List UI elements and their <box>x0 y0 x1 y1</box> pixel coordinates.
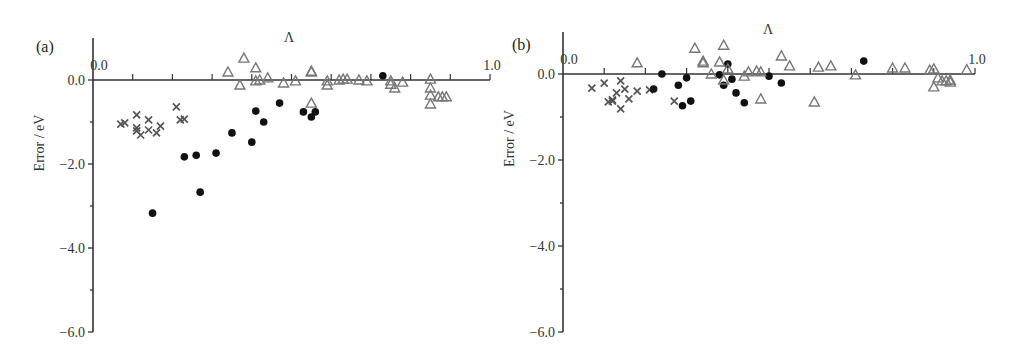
y-axis-title: Error / eV <box>502 110 517 167</box>
data-point-cross <box>137 132 144 139</box>
data-point-circle <box>679 102 687 110</box>
y-tick-label: −2.0 <box>530 153 555 168</box>
chart-figure: 0.0−2.0−4.0−6.00.01.0(a)ΛError / eV 0.0−… <box>0 0 1012 355</box>
data-point-triangle <box>398 77 408 86</box>
series-cross <box>117 103 188 138</box>
data-point-circle <box>196 188 204 196</box>
data-point-circle <box>687 97 695 105</box>
data-point-triangle <box>235 80 245 89</box>
data-point-cross <box>617 105 624 112</box>
y-tick-label: −4.0 <box>60 241 85 256</box>
data-point-circle <box>650 85 658 93</box>
x-axis-title: Λ <box>284 30 295 45</box>
data-point-cross <box>145 116 152 123</box>
y-tick-label: −2.0 <box>60 157 85 172</box>
data-point-triangle <box>719 40 729 49</box>
data-point-cross <box>617 77 624 84</box>
data-point-triangle <box>306 98 316 107</box>
data-point-cross <box>625 95 632 102</box>
data-point-triangle <box>826 61 836 70</box>
data-point-cross <box>153 129 160 136</box>
data-point-cross <box>621 86 628 93</box>
data-point-triangle <box>785 61 795 70</box>
data-point-cross <box>145 126 152 133</box>
series-cross <box>588 77 677 112</box>
y-tick-label: 0.0 <box>68 73 86 88</box>
data-point-cross <box>613 89 620 96</box>
series-filled-circle <box>650 57 868 109</box>
y-tick-label: −6.0 <box>60 325 85 340</box>
x-tick-label: 0.0 <box>560 52 578 67</box>
x-tick-label: 1.0 <box>483 58 501 73</box>
data-point-cross <box>157 123 164 130</box>
series-filled-circle <box>149 72 387 217</box>
data-point-cross <box>601 80 608 87</box>
data-point-circle <box>379 72 387 80</box>
data-point-circle <box>260 118 268 126</box>
data-point-circle <box>728 75 736 83</box>
data-point-cross <box>671 98 678 105</box>
data-point-circle <box>778 79 786 87</box>
data-point-triangle <box>809 97 819 106</box>
data-point-circle <box>192 151 200 159</box>
data-point-circle <box>675 81 683 89</box>
data-point-circle <box>181 153 189 161</box>
y-tick-label: −4.0 <box>530 239 555 254</box>
data-point-triangle <box>690 43 700 52</box>
panel-label: (b) <box>512 36 531 54</box>
data-point-circle <box>732 89 740 97</box>
panel-a: 0.0−2.0−4.0−6.00.01.0(a)ΛError / eV <box>32 30 501 340</box>
data-point-circle <box>149 209 157 217</box>
x-tick-label: 1.0 <box>968 52 986 67</box>
data-point-circle <box>228 129 236 137</box>
panel-b: 0.0−2.0−4.0−6.00.01.0(b)ΛError / eV <box>502 22 986 340</box>
panel-label: (a) <box>36 38 54 56</box>
data-point-circle <box>276 99 284 107</box>
data-point-circle <box>248 138 256 146</box>
data-point-triangle <box>715 57 725 66</box>
data-point-triangle <box>632 58 642 67</box>
data-point-triangle <box>900 63 910 72</box>
data-point-circle <box>252 107 260 115</box>
x-axis-title: Λ <box>763 22 774 37</box>
data-point-cross <box>173 103 180 110</box>
data-point-cross <box>634 88 641 95</box>
data-point-triangle <box>239 53 249 62</box>
data-point-triangle <box>251 63 261 72</box>
y-tick-label: −6.0 <box>530 325 555 340</box>
data-point-circle <box>860 57 868 65</box>
x-tick-label: 0.0 <box>90 58 108 73</box>
data-point-circle <box>312 108 320 116</box>
data-point-circle <box>683 74 691 82</box>
data-point-triangle <box>223 67 233 76</box>
data-point-triangle <box>776 51 786 60</box>
data-point-circle <box>740 99 748 107</box>
data-point-circle <box>300 108 308 116</box>
y-axis-title: Error / eV <box>32 115 47 172</box>
data-point-cross <box>588 85 595 92</box>
data-point-cross <box>133 111 140 118</box>
series-open-triangle <box>632 40 972 106</box>
data-point-circle <box>720 81 728 89</box>
data-point-circle <box>212 149 220 157</box>
y-tick-label: 0.0 <box>538 67 556 82</box>
data-point-triangle <box>756 94 766 103</box>
data-point-triangle <box>813 62 823 71</box>
data-point-circle <box>658 70 666 78</box>
